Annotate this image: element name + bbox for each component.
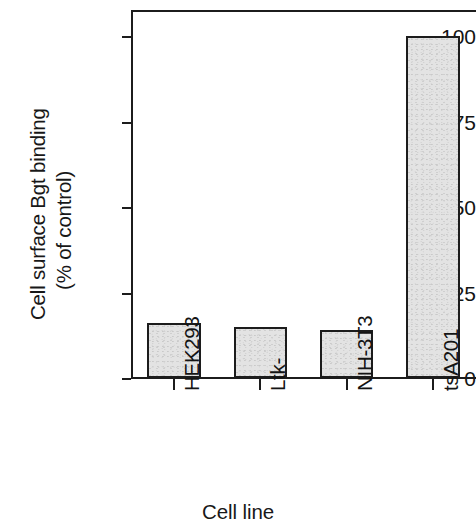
x-tick-label: NIH-3T3: [355, 316, 376, 391]
plot-top-border: [131, 10, 476, 12]
x-tick-label: Ltk-: [268, 358, 289, 391]
y-tick-mark: [122, 207, 131, 209]
y-axis-title: Cell surface Bgt binding (% of control): [0, 0, 62, 390]
x-axis-title: Cell line: [0, 500, 476, 524]
y-axis-title-line-2: (% of control): [52, 171, 76, 290]
y-tick-mark: [122, 122, 131, 124]
x-tick-mark: [173, 379, 175, 390]
y-tick-mark: [122, 36, 131, 38]
x-tick-mark: [346, 379, 348, 390]
x-tick-label: tsA201: [441, 329, 462, 391]
y-axis-title-line-1: Cell surface Bgt binding: [26, 108, 50, 320]
bar-tsa201: [406, 36, 459, 378]
x-tick-mark: [259, 379, 261, 390]
y-tick-mark: [122, 378, 131, 380]
y-axis-line: [131, 10, 133, 379]
x-tick-label: HEK293: [182, 316, 203, 391]
x-tick-mark: [432, 379, 434, 390]
bar-chart-figure: Cell surface Bgt binding (% of control) …: [0, 0, 476, 531]
y-tick-mark: [122, 293, 131, 295]
